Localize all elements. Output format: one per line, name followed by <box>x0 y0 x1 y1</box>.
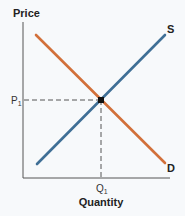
y-axis-title: Price <box>13 7 40 19</box>
price-tick-label: P1 <box>11 95 22 107</box>
x-axis-title: Quantity <box>79 196 124 208</box>
supply-demand-diagram: Price Quantity P1 Q1 S D <box>0 0 185 216</box>
supply-label: S <box>167 23 174 35</box>
quantity-tick-label: Q1 <box>96 183 108 195</box>
equilibrium-point <box>98 97 104 103</box>
demand-label: D <box>167 162 175 174</box>
